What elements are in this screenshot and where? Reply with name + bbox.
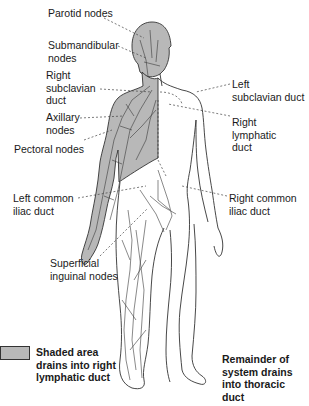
label-pectoral-nodes: Pectoral nodes <box>14 143 84 156</box>
label-right-common-iliac-duct: Right common iliac duct <box>229 192 297 217</box>
label-submandibular-nodes: Submandibular nodes <box>48 39 119 64</box>
label-right-lymphatic-duct: Right lymphatic duct <box>232 116 276 154</box>
label-left-subclavian-duct: Left subclavian duct <box>232 78 304 103</box>
label-superficial-inguinal-nodes: Superficial inguinal nodes <box>50 257 118 282</box>
lymph-vessels <box>88 30 176 380</box>
legend-remainder-text: Remainder of system drains into thoracic… <box>222 353 293 403</box>
label-parotid-nodes: Parotid nodes <box>48 7 113 20</box>
label-right-subclavian-duct: Right subclavian duct <box>46 69 96 107</box>
legend-shaded-text: Shaded area drains into right lymphatic … <box>36 346 116 384</box>
label-axillary-nodes: Axillary nodes <box>46 111 80 136</box>
label-left-common-iliac-duct: Left common iliac duct <box>13 192 74 217</box>
legend-shaded-swatch <box>0 346 30 360</box>
